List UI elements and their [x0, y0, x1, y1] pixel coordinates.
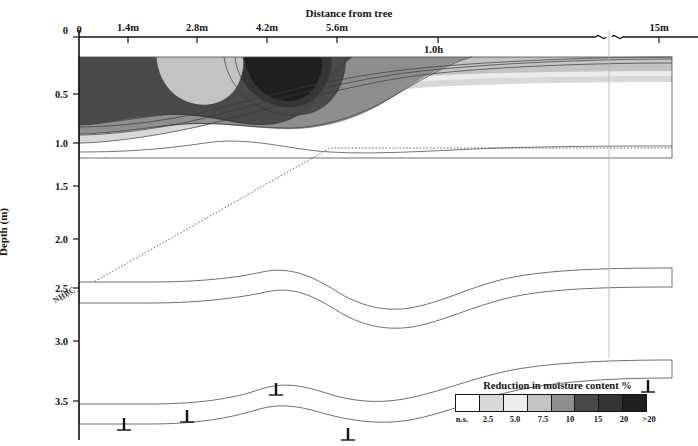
legend: Reduction in moisture content % n.s. 2.5…	[455, 380, 660, 426]
legend-swatch-5_0	[504, 395, 528, 411]
borehole-marker	[341, 428, 355, 440]
legend-label-10: 10	[566, 414, 575, 424]
legend-label-15: 15	[594, 414, 603, 424]
y-axis-title: Depth (m)	[0, 208, 9, 256]
legend-swatch-10	[552, 395, 576, 411]
legend-swatch-7_5	[528, 395, 552, 411]
x-tick-label-1_4m: 1.4m	[117, 22, 139, 33]
x-tick-group	[128, 37, 659, 43]
axis-break-squiggle-left	[596, 36, 606, 39]
legend-label-5_0: 5.0	[510, 414, 521, 424]
legend-swatch-20	[599, 395, 623, 411]
axis-break-squiggle-right	[612, 36, 622, 39]
legend-label-7_5: 7.5	[538, 414, 549, 424]
legend-label-2_5: 2.5	[483, 414, 494, 424]
legend-label-over20: >20	[642, 414, 655, 424]
x-tick-label-0: 0	[76, 24, 81, 35]
y-tick-label-0: 0	[44, 25, 68, 36]
figure-root: Distance from tree	[0, 0, 698, 446]
contour-band-group	[79, 57, 672, 158]
y-tick-label-2_0: 2.0	[36, 234, 68, 245]
legend-label-20: 20	[620, 414, 629, 424]
legend-swatch-over20	[623, 395, 646, 411]
stratum-middle	[79, 268, 672, 328]
legend-label-row: n.s. 2.5 5.0 7.5 10 15 20 >20	[455, 414, 645, 426]
x-tick-label-2_8m: 2.8m	[186, 22, 208, 33]
legend-swatch-15	[575, 395, 599, 411]
y-tick-label-3_0: 3.0	[36, 336, 68, 347]
legend-swatch-ns	[456, 395, 480, 411]
legend-swatch-row	[455, 394, 647, 412]
legend-label-ns: n.s.	[456, 414, 468, 424]
annotation-1_0h: 1.0h	[424, 44, 443, 55]
legend-title: Reduction in moisture content %	[455, 380, 660, 391]
legend-swatch-2_5	[480, 395, 504, 411]
y-tick-group	[73, 37, 79, 401]
x-tick-label-15m: 15m	[649, 22, 668, 33]
y-tick-label-3_5: 3.5	[36, 396, 68, 407]
y-tick-label-1_0: 1.0	[36, 138, 68, 149]
x-tick-label-4_2m: 4.2m	[256, 22, 278, 33]
y-tick-label-0_5: 0.5	[36, 89, 68, 100]
x-tick-label-5_6m: 5.6m	[326, 22, 348, 33]
y-tick-label-1_5: 1.5	[36, 181, 68, 192]
